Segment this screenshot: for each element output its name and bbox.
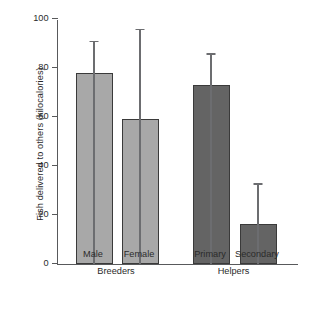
y-tick-label: 20: [38, 209, 48, 219]
group-label-helpers: Helpers: [184, 266, 284, 276]
y-tick-label: 60: [38, 111, 48, 121]
y-tick-60: 60: [52, 116, 58, 117]
y-tick-80: 80: [52, 67, 58, 68]
y-tick-label: 0: [43, 258, 48, 268]
error-bar-male: [93, 41, 94, 264]
error-bar-cap: [206, 53, 215, 54]
error-bar-female: [139, 29, 140, 264]
y-tick-100: 100: [52, 18, 58, 19]
y-tick-label: 80: [38, 62, 48, 72]
error-bar-cap: [135, 29, 144, 30]
x-tick-label-female: Female: [99, 249, 179, 259]
error-bar-cap: [253, 183, 262, 184]
y-tick-40: 40: [52, 165, 58, 166]
error-bar-cap: [89, 41, 98, 42]
x-tick-label-secondary: Secondary: [217, 249, 297, 259]
y-axis-title: Fish delivered to others (kilocalories): [35, 14, 45, 274]
group-label-breeders: Breeders: [66, 266, 166, 276]
y-tick-0: 0: [52, 263, 58, 264]
y-tick-20: 20: [52, 214, 58, 215]
y-tick-label: 100: [33, 13, 48, 23]
y-tick-label: 40: [38, 160, 48, 170]
error-bar-primary: [210, 53, 211, 264]
bar-chart-figure: Fish delivered to others (kilocalories) …: [0, 0, 322, 310]
plot-area: 020406080100: [57, 20, 298, 265]
